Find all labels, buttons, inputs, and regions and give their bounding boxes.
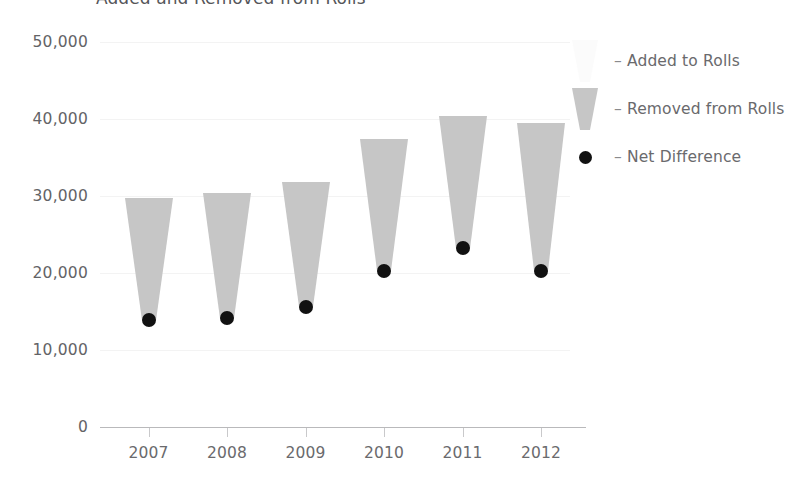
- x-axis-tick-2012: [541, 428, 542, 437]
- x-axis-line: [100, 427, 586, 428]
- x-axis-label-2007: 2007: [109, 444, 189, 462]
- x-axis-tick-2010: [384, 428, 385, 437]
- funnel-bar-2009[interactable]: [280, 182, 332, 317]
- legend-dash: –: [614, 52, 622, 70]
- legend-item-net-difference[interactable]: –Net Difference: [556, 140, 801, 174]
- funnel-bar-2011[interactable]: [437, 116, 489, 258]
- x-axis-label-2012: 2012: [501, 444, 581, 462]
- funnel-light-icon: [556, 38, 614, 84]
- legend-text-added-to-rolls: Added to Rolls: [627, 52, 740, 70]
- chart-legend: –Added to Rolls –Removed from Rolls –Net…: [556, 44, 801, 174]
- legend-item-removed-from-rolls[interactable]: –Removed from Rolls: [556, 92, 801, 126]
- y-axis-label-30000: 30,000: [12, 187, 88, 205]
- y-axis-label-10000: 10,000: [12, 341, 88, 359]
- x-axis-tick-2007: [149, 428, 150, 437]
- legend-dash: –: [614, 148, 622, 166]
- x-axis-label-2009: 2009: [266, 444, 346, 462]
- y-axis-label-50000: 50,000: [12, 33, 88, 51]
- funnel-bar-2010[interactable]: [358, 139, 410, 281]
- funnel-gray-icon: [556, 86, 614, 132]
- funnel-bar-2007[interactable]: [123, 198, 175, 330]
- y-axis-label-20000: 20,000: [12, 264, 88, 282]
- gridline-50000: [100, 42, 570, 43]
- gridline-40000: [100, 119, 570, 120]
- net-difference-dot-2012[interactable]: [534, 264, 548, 278]
- y-axis-labels: 50,000 40,000 30,000 20,000 10,000 0: [8, 0, 88, 500]
- gridline-10000: [100, 350, 570, 351]
- legend-dash: –: [614, 100, 622, 118]
- plot-area: [100, 28, 570, 430]
- legend-item-added-to-rolls[interactable]: –Added to Rolls: [556, 44, 801, 78]
- legend-label-added-to-rolls: –Added to Rolls: [614, 52, 740, 70]
- legend-text-net-difference: Net Difference: [627, 148, 741, 166]
- net-difference-dot-2011[interactable]: [456, 241, 470, 255]
- x-axis-tick-2008: [227, 428, 228, 437]
- legend-label-net-difference: –Net Difference: [614, 148, 741, 166]
- dot-black-icon: [556, 151, 614, 164]
- net-difference-dot-2009[interactable]: [299, 300, 313, 314]
- x-axis-label-2010: 2010: [344, 444, 424, 462]
- x-axis-tick-2009: [306, 428, 307, 437]
- funnel-bar-2008[interactable]: [201, 193, 253, 329]
- legend-dot-shape: [579, 151, 592, 164]
- chart-title: Added and Removed from Rolls: [96, 0, 516, 8]
- net-difference-dot-2007[interactable]: [142, 313, 156, 327]
- y-axis-label-0: 0: [12, 418, 88, 436]
- legend-text-removed-from-rolls: Removed from Rolls: [627, 100, 785, 118]
- net-difference-dot-2010[interactable]: [377, 264, 391, 278]
- x-axis-tick-2011: [463, 428, 464, 437]
- x-axis-label-2008: 2008: [187, 444, 267, 462]
- chart-container: Added and Removed from Rolls 50,000 40,0…: [0, 0, 801, 500]
- y-axis-label-40000: 40,000: [12, 110, 88, 128]
- x-axis-label-2011: 2011: [423, 444, 503, 462]
- legend-label-removed-from-rolls: –Removed from Rolls: [614, 100, 785, 118]
